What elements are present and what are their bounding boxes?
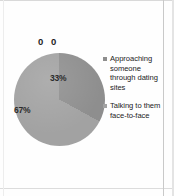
figure-border-top — [0, 0, 174, 1]
figure-vertical-rule — [163, 0, 164, 196]
pie-top-annotation: 0 0 — [38, 36, 59, 47]
pie-graphic — [14, 53, 105, 146]
figure-border-left — [3, 0, 4, 196]
square-marker-icon — [103, 104, 107, 108]
figure-border-bottom — [0, 188, 174, 189]
square-marker-icon — [103, 57, 107, 61]
legend-item-label: Talking to them face-to-face — [110, 101, 161, 120]
pie-slice-label-approaching: 33% — [50, 73, 66, 83]
pie-slice-label-face-to-face: 67% — [14, 105, 30, 115]
figure-border-right — [172, 0, 174, 196]
chart-legend: Approaching someone through dating sites… — [103, 54, 161, 130]
pie-chart-figure: 0 0 33% 67% Approaching someone through … — [0, 0, 174, 196]
legend-item-approaching[interactable]: Approaching someone through dating sites — [103, 54, 161, 92]
legend-item-face-to-face[interactable]: Talking to them face-to-face — [103, 101, 161, 120]
legend-item-label: Approaching someone through dating sites — [110, 54, 161, 92]
plot-area — [13, 50, 105, 148]
